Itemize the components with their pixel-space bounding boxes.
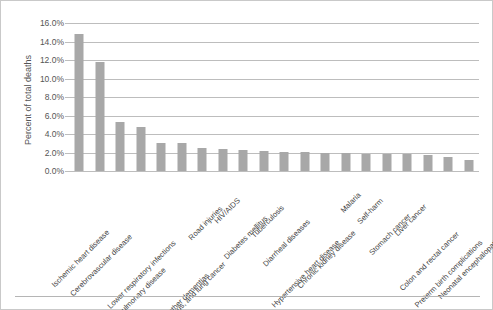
y-axis-tick-label: 4.0% [45, 129, 64, 139]
y-axis-tick-label: 6.0% [45, 111, 64, 121]
bar[interactable] [362, 154, 371, 171]
bar[interactable] [403, 154, 412, 171]
chart-figure: Percent of total deaths 0.0%2.0%4.0%6.0%… [0, 0, 493, 310]
bar[interactable] [259, 151, 268, 171]
bar-slot [336, 23, 357, 171]
bar-slot [356, 23, 377, 171]
x-axis-tick-label-text: Malaria [338, 191, 362, 215]
bar-slot [459, 23, 480, 171]
bar[interactable] [444, 157, 453, 171]
gridline [69, 171, 479, 172]
y-axis-tick-label: 0.0% [45, 166, 64, 176]
bar-slot [110, 23, 131, 171]
y-axis-tick-label: 14.0% [40, 37, 64, 47]
bar-slot [274, 23, 295, 171]
bar-series [69, 23, 479, 171]
bar-slot [377, 23, 398, 171]
bottom-rule [15, 296, 480, 297]
bar-slot [295, 23, 316, 171]
bar-slot [90, 23, 111, 171]
bar-slot [213, 23, 234, 171]
bar-slot [315, 23, 336, 171]
bar[interactable] [321, 153, 330, 172]
plot-area: 0.0%2.0%4.0%6.0%8.0%10.0%12.0%14.0%16.0% [69, 23, 479, 171]
bar[interactable] [300, 152, 309, 171]
y-axis-tick-label: 8.0% [45, 92, 64, 102]
bar-slot [438, 23, 459, 171]
x-axis-tick-labels: Ischemic heart diseaseCerebrovascular di… [69, 173, 479, 293]
bar-slot [69, 23, 90, 171]
y-axis-tick-label: 2.0% [45, 148, 64, 158]
x-axis-tick-label: Malaria [356, 173, 380, 197]
bar[interactable] [95, 62, 104, 171]
bar[interactable] [423, 155, 432, 171]
bar[interactable] [239, 150, 248, 171]
bar[interactable] [136, 127, 145, 171]
x-axis-tick-label-text: Preterm birth complications [413, 238, 484, 309]
bar[interactable] [382, 154, 391, 171]
bar-slot [192, 23, 213, 171]
bar[interactable] [198, 148, 207, 171]
bar-slot [254, 23, 275, 171]
bar-slot [233, 23, 254, 171]
bar[interactable] [280, 152, 289, 171]
bar-slot [397, 23, 418, 171]
bar[interactable] [157, 143, 166, 171]
bar[interactable] [218, 149, 227, 171]
y-axis-tick-label: 12.0% [40, 55, 64, 65]
bar[interactable] [116, 122, 125, 171]
bar-slot [131, 23, 152, 171]
x-axis-tick-label-text: Chronic kidney disease [296, 229, 358, 291]
y-axis-tick-label: 10.0% [40, 74, 64, 84]
y-axis-title: Percent of total deaths [22, 25, 35, 175]
bar-slot [151, 23, 172, 171]
bar[interactable] [464, 160, 473, 171]
y-axis-tick-mark [65, 171, 69, 172]
bar[interactable] [177, 143, 186, 171]
x-axis-tick-label: Colon and rectal cancer [454, 173, 493, 236]
bar[interactable] [341, 153, 350, 171]
bar[interactable] [75, 34, 84, 171]
bar-slot [172, 23, 193, 171]
y-axis-tick-label: 16.0% [40, 18, 64, 28]
bar-slot [418, 23, 439, 171]
